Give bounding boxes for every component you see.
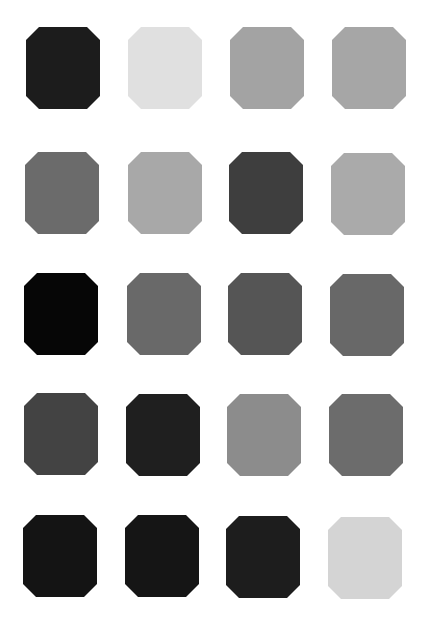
octagon-swatch-r5-c3 (226, 516, 300, 598)
octagon-swatch-r1-c1 (26, 27, 100, 109)
octagon-swatch-r1-c2 (128, 27, 202, 109)
octagon-swatch-r3-c3 (228, 273, 302, 355)
octagon-swatch-r4-c4 (329, 394, 403, 476)
swatch-grid (0, 0, 429, 627)
octagon-swatch-r3-c1 (24, 273, 98, 355)
octagon-swatch-r4-c1 (24, 393, 98, 475)
octagon-swatch-r3-c4 (330, 274, 404, 356)
octagon-swatch-r5-c1 (23, 515, 97, 597)
octagon-swatch-r4-c3 (227, 394, 301, 476)
octagon-swatch-r4-c2 (126, 394, 200, 476)
octagon-swatch-r2-c4 (331, 153, 405, 235)
octagon-swatch-r5-c2 (125, 515, 199, 597)
octagon-swatch-r2-c1 (25, 152, 99, 234)
octagon-swatch-r1-c4 (332, 27, 406, 109)
octagon-swatch-r3-c2 (127, 273, 201, 355)
octagon-swatch-r5-c4 (328, 517, 402, 599)
octagon-swatch-r1-c3 (230, 27, 304, 109)
octagon-swatch-r2-c3 (229, 152, 303, 234)
octagon-swatch-r2-c2 (128, 152, 202, 234)
